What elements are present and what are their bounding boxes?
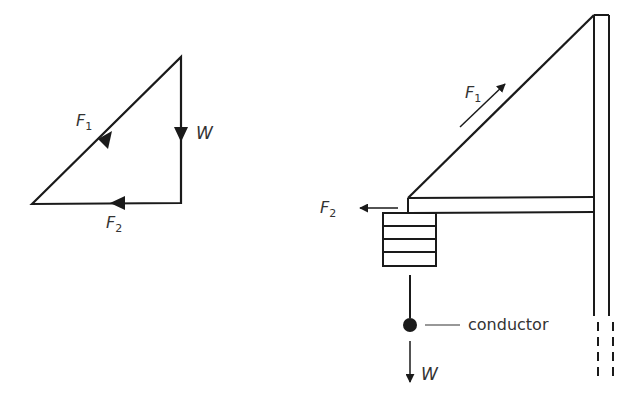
pole (594, 15, 613, 381)
f1-arrowhead-icon (98, 131, 112, 149)
pole-diagram: conductor W F1 F2 (320, 15, 613, 384)
triangle-f2-label: F2 (106, 213, 122, 235)
f2-arrowhead-icon (110, 196, 125, 210)
triangle-f1-label: F1 (76, 111, 92, 133)
insulator (383, 213, 436, 266)
triangle-w-label: W (196, 123, 214, 143)
force-diagram: F1 W F2 (0, 0, 639, 399)
w-arrowhead-icon (174, 127, 188, 142)
triangle-outline (32, 57, 181, 204)
pole-w-label: W (421, 364, 439, 384)
tie-rod (408, 15, 594, 198)
conductor-label: conductor (468, 315, 549, 334)
pole-f2-label: F2 (320, 198, 336, 220)
triangle-of-forces: F1 W F2 (32, 57, 214, 235)
conductor-dot (403, 318, 417, 332)
pole-f1-label: F1 (465, 83, 481, 105)
cross-arm (408, 197, 594, 213)
